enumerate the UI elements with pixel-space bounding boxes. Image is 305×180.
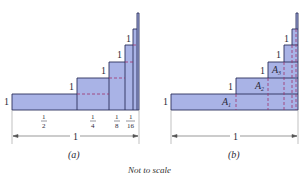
svg-text:8: 8	[115, 122, 119, 130]
svg-text:4: 4	[91, 122, 95, 130]
width-fractions: 1 2 1 4 1 8 1 16	[41, 113, 135, 130]
height-label: 1	[101, 65, 106, 76]
svg-text:2: 2	[42, 122, 46, 130]
staircase-b	[171, 13, 298, 110]
svg-text:1: 1	[129, 113, 133, 121]
height-label: 1	[284, 33, 289, 44]
figure-b: 1 1 1 1 1 A1 A2 A3 1 (b)	[163, 13, 298, 161]
svg-text:1: 1	[91, 113, 95, 121]
height-label: 1	[260, 65, 265, 76]
height-label: 1	[163, 96, 168, 107]
caption-a: (a)	[68, 149, 80, 161]
staircase-a	[12, 13, 139, 110]
svg-text:1: 1	[115, 113, 119, 121]
height-label: 1	[4, 96, 9, 107]
total-width-label: 1	[233, 131, 238, 142]
height-label: 1	[126, 33, 131, 44]
height-label: 1	[228, 81, 233, 92]
total-width-label: 1	[73, 131, 78, 142]
caption-b: (b)	[228, 149, 240, 161]
svg-text:16: 16	[127, 122, 135, 130]
height-label: 1	[117, 49, 122, 60]
figure-a: 1 1 1 1 1 1 2 1 4 1 8 1 16 1	[4, 13, 139, 161]
height-label: 1	[276, 49, 281, 60]
not-to-scale-note: Not to scale	[127, 165, 171, 175]
height-label: 1	[69, 81, 74, 92]
svg-text:1: 1	[42, 113, 46, 121]
diagram-canvas: 1 1 1 1 1 1 2 1 4 1 8 1 16 1	[0, 0, 305, 180]
